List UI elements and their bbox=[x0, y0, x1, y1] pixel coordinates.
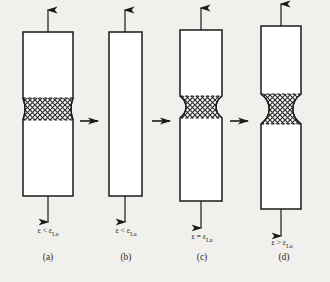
specimen-body-b bbox=[109, 32, 142, 196]
strain-ref-subscript-a: Lu bbox=[52, 231, 58, 237]
panel-letter-c: (c) bbox=[156, 252, 248, 262]
specimen-panel-b bbox=[109, 10, 142, 222]
specimen-panel-a bbox=[23, 10, 73, 222]
necking-sequence-figure: ε<εLu (a) ε<εLu (b) ε=εLu (c) ε>εLu (d) bbox=[0, 0, 330, 282]
specimen-panel-d bbox=[261, 4, 301, 236]
strain-ref-subscript-c: Lu bbox=[206, 237, 212, 243]
strain-relation-b: < bbox=[119, 226, 127, 235]
strain-relation-c: = bbox=[195, 232, 203, 241]
strain-ref-subscript-d: Lu bbox=[286, 243, 292, 249]
strain-label-c: ε=εLu bbox=[156, 232, 248, 243]
strain-ref-subscript-b: Lu bbox=[130, 231, 136, 237]
necking-band-d bbox=[261, 94, 301, 124]
strain-label-d: ε>εLu bbox=[236, 238, 328, 249]
strain-relation-a: < bbox=[41, 226, 49, 235]
panel-letter-d: (d) bbox=[238, 252, 330, 262]
specimen-panel-c bbox=[180, 8, 222, 228]
strain-relation-d: > bbox=[275, 238, 283, 247]
necking-band-a bbox=[23, 98, 73, 120]
